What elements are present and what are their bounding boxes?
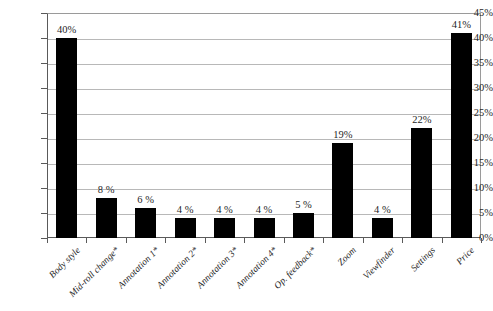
bar-value-label: 19% [318,129,368,140]
bar [293,213,314,238]
gridline [48,64,480,65]
bar [135,208,156,238]
x-axis-tick [86,238,87,243]
bar-value-label: 22% [397,114,447,125]
x-axis-tick [481,238,482,243]
gridline [48,39,480,40]
bar-value-label: 41% [436,19,486,30]
y-axis-tick [41,113,47,114]
bar [451,33,472,238]
x-axis-tick [244,238,245,243]
bar [372,218,393,238]
x-axis-tick [323,238,324,243]
x-axis-tick [284,238,285,243]
x-axis-tick [126,238,127,243]
bar-value-label: 4 % [357,204,407,215]
gridline [48,89,480,90]
y-axis-tick [41,38,47,39]
y-axis-tick [41,138,47,139]
bar [411,128,432,238]
bar [332,143,353,238]
bar [96,198,117,238]
y-axis-tick [41,188,47,189]
x-axis-tick [402,238,403,243]
x-axis-tick [363,238,364,243]
bar-value-label: 5 % [278,199,328,210]
y-axis-tick [41,213,47,214]
bar [175,218,196,238]
bar-value-label: 40% [42,24,92,35]
bar-chart: 0%5%10%15%20%25%30%35%40%45% 40%8 %6 %4 … [0,0,493,311]
bar [214,218,235,238]
bar [56,38,77,238]
y-axis-tick [41,63,47,64]
x-axis-tick [442,238,443,243]
y-axis-label: 45% [453,8,493,19]
x-axis-tick [47,238,48,243]
x-axis-tick [205,238,206,243]
y-axis-tick [41,88,47,89]
bar [254,218,275,238]
y-axis-tick [41,163,47,164]
y-axis-tick [41,13,47,14]
x-axis-tick [165,238,166,243]
